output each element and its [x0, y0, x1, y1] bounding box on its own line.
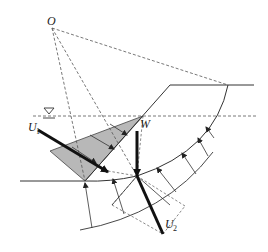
force-triangle: [112, 176, 170, 205]
water-symbol-icon: [43, 108, 55, 118]
slope-stability-diagram: O W U 1 U 2: [0, 0, 268, 252]
submerged-wedge: [50, 116, 143, 181]
svg-text:1: 1: [36, 127, 40, 136]
center-label: O: [47, 14, 56, 28]
weight-label: W: [140, 117, 151, 131]
u2-label: U 2: [165, 217, 177, 233]
u1-label: U 1: [28, 120, 40, 136]
force-u2-arrow: [137, 176, 163, 234]
svg-text:2: 2: [173, 224, 177, 233]
